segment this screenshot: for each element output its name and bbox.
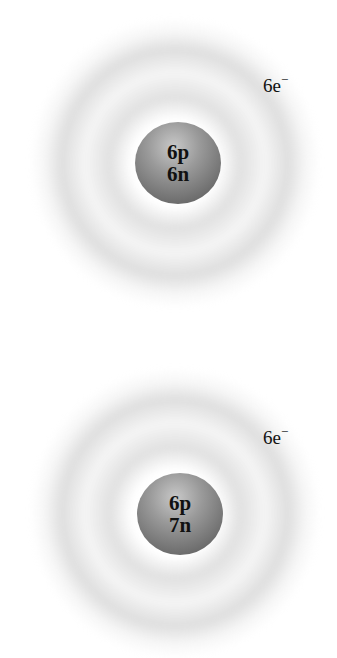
nucleus: 6p 7n (137, 473, 223, 555)
proton-count: 6p (167, 141, 189, 163)
nucleus: 6p 6n (135, 122, 221, 204)
proton-count: 6p (169, 492, 191, 514)
atom-carbon-13: 6p 7n 6e− (0, 330, 337, 658)
neutron-count: 6n (167, 163, 189, 185)
neutron-count: 7n (169, 514, 191, 536)
electron-count: 6e− (263, 72, 288, 97)
atom-carbon-12: 6p 6n 6e− (0, 0, 337, 328)
electron-count: 6e− (263, 424, 288, 449)
